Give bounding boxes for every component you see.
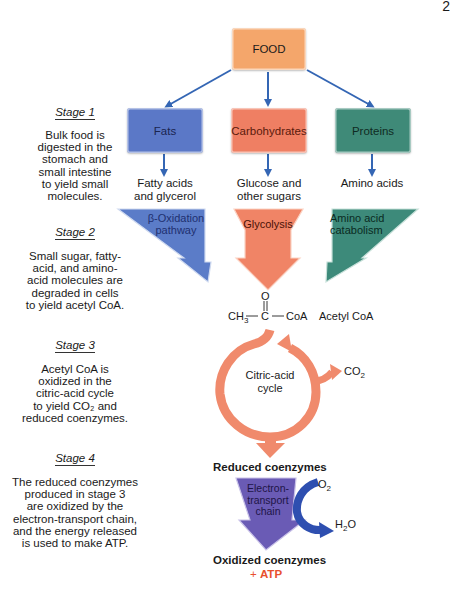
stage-2-title: Stage 2 — [35, 226, 115, 238]
acetyl-coa-oxygen: O — [261, 290, 270, 302]
amino-catabolism-label: Amino acid catabolism — [330, 212, 390, 236]
stage-1-text: Bulk food is digested in the stomach and… — [30, 129, 120, 202]
stage-3-text: Acetyl CoA is oxidized in the citric-aci… — [20, 363, 130, 424]
stage-4-title: Stage 4 — [35, 452, 115, 464]
fats-box: Fats — [127, 108, 203, 153]
food-label: FOOD — [252, 43, 285, 55]
fats-product: Fatty acids and glycerol — [124, 177, 206, 202]
proteins-label: Proteins — [352, 125, 394, 137]
acetyl-coa-coa: CoA — [286, 310, 307, 322]
stage-3-title: Stage 3 — [35, 339, 115, 351]
stage-1-title: Stage 1 — [35, 106, 115, 118]
fats-label: Fats — [154, 125, 176, 137]
acetyl-coa-ch3: CH3 — [228, 310, 248, 322]
carbohydrates-box: Carbohydrates — [231, 108, 307, 153]
stage-2-text: Small sugar, fatty- acid, and amino- aci… — [20, 250, 130, 311]
stage-4-text: The reduced coenzymes produced in stage … — [10, 476, 140, 549]
oxidized-coenzymes-label: Oxidized coenzymes — [213, 554, 326, 566]
beta-oxidation-label: β-Oxidation pathway — [143, 212, 209, 236]
page-number: 2 — [442, 0, 450, 14]
glycolysis-label: Glycolysis — [236, 218, 300, 230]
acetyl-coa-name: Acetyl CoA — [319, 310, 373, 322]
o2-label: O2 — [318, 478, 331, 490]
proteins-box: Proteins — [335, 108, 411, 153]
etc-label: Electron- transport chain — [243, 483, 293, 518]
food-arrows — [167, 70, 372, 106]
carbohydrates-product: Glucose and other sugars — [226, 177, 312, 202]
citric-acid-cycle-label: Citric-acid cycle — [238, 369, 302, 394]
food-box: FOOD — [232, 28, 306, 70]
product-arrows — [164, 154, 372, 174]
co2-label: CO2 — [344, 365, 365, 377]
atp-label: + ATP — [250, 568, 282, 580]
citric-acid-cycle-ring — [220, 330, 342, 458]
carbohydrates-label: Carbohydrates — [231, 125, 306, 137]
h2o-label: H2O — [335, 518, 356, 530]
acetyl-coa-carbon: C — [261, 310, 269, 322]
proteins-product: Amino acids — [330, 177, 414, 190]
reduced-coenzymes-label: Reduced coenzymes — [213, 461, 327, 473]
